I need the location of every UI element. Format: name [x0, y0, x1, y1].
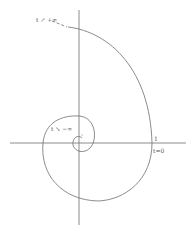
- label-plus-infinity: t ↗ +∞: [36, 16, 57, 23]
- spiral-diagram: t ↗ +∞ t ↘ −∞ 1 t=0: [0, 0, 194, 232]
- spiral-curve: [43, 27, 152, 201]
- label-minus-infinity: t ↘ −∞: [51, 125, 72, 132]
- small-dot: [82, 135, 83, 136]
- label-t-zero: t=0: [153, 147, 164, 154]
- label-one: 1: [154, 135, 158, 142]
